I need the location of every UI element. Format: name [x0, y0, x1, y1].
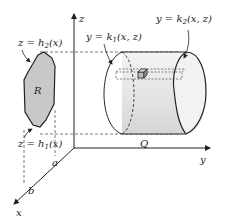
x-axis: x: [14, 148, 74, 218]
svg-text:y = k1(x, z): y = k1(x, z): [85, 31, 142, 44]
label-k2: y = k2(x, z): [155, 13, 212, 58]
iterated-integral-diagram: z y x R: [0, 0, 225, 221]
z-axis: z: [74, 13, 85, 148]
tick-label-b: b: [28, 185, 34, 196]
svg-text:z = h1(x): z = h1(x): [17, 138, 62, 151]
region-R: R: [24, 52, 55, 127]
region-Q-label: Q: [140, 138, 148, 149]
x-axis-label: x: [16, 207, 22, 218]
cylinder-solid: Q: [104, 52, 206, 149]
svg-text:z = h2(x): z = h2(x): [17, 37, 62, 50]
tick-label-a: a: [52, 157, 58, 168]
y-axis-label: y: [199, 154, 206, 165]
svg-text:y = k2(x, z): y = k2(x, z): [155, 13, 212, 26]
region-R-label: R: [33, 85, 42, 96]
z-axis-label: z: [78, 13, 85, 24]
y-axis: y: [74, 148, 210, 165]
volume-element-cube: [138, 69, 147, 78]
